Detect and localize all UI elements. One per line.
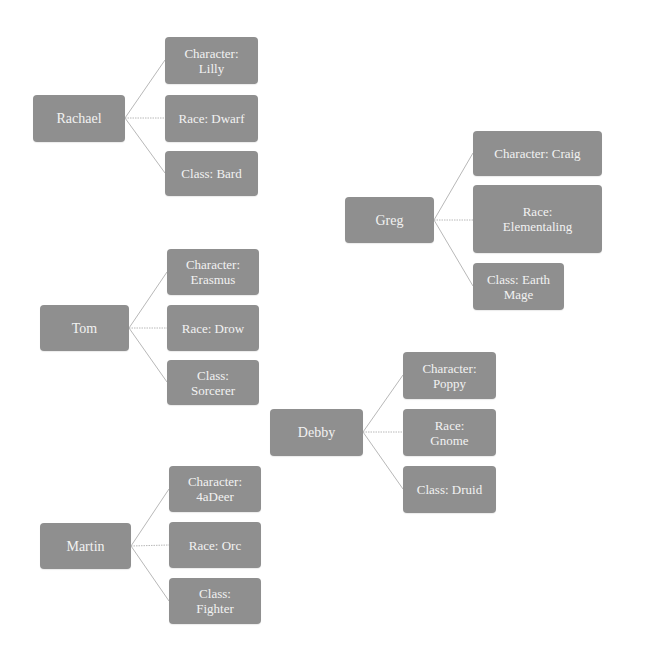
race-label: Race: Elementaling (497, 204, 578, 234)
character-label: Character: Craig (494, 146, 580, 161)
class-label: Class: Earth Mage (477, 272, 560, 302)
character-label: Character: 4aDeer (179, 474, 251, 504)
character-node-erasmus: Character: Erasmus (167, 249, 259, 295)
class-label: Class: Bard (181, 166, 241, 181)
player-name: Martin (66, 539, 104, 554)
class-label: Class: Fighter (187, 586, 243, 616)
race-label: Race: Dwarf (178, 111, 244, 126)
player-node-martin: Martin (40, 523, 131, 569)
race-label: Race: Gnome (421, 418, 478, 448)
character-node-poppy: Character: Poppy (403, 352, 496, 399)
character-node-lilly: Character: Lilly (165, 37, 258, 84)
race-node-drow: Race: Drow (167, 305, 259, 351)
character-node-craig: Character: Craig (473, 131, 602, 176)
class-label: Class: Druid (417, 482, 482, 497)
race-node-dwarf: Race: Dwarf (165, 95, 258, 142)
race-label: Race: Drow (182, 321, 244, 336)
race-node-elementaling: Race: Elementaling (473, 185, 602, 253)
player-node-debby: Debby (270, 409, 363, 456)
player-name: Greg (376, 213, 404, 228)
race-label: Race: Orc (189, 538, 241, 553)
player-name: Debby (298, 425, 335, 440)
player-character-diagram: Rachael Character: Lilly Race: Dwarf Cla… (0, 0, 648, 660)
class-node-sorcerer: Class: Sorcerer (167, 360, 259, 405)
player-node-tom: Tom (40, 305, 129, 351)
class-node-earth-mage: Class: Earth Mage (473, 263, 564, 310)
class-node-fighter: Class: Fighter (169, 578, 261, 624)
player-name: Rachael (56, 111, 101, 126)
character-label: Character: Poppy (413, 361, 486, 391)
player-name: Tom (72, 321, 97, 336)
player-node-rachael: Rachael (33, 95, 125, 142)
character-label: Character: Lilly (175, 46, 248, 76)
character-node-4adeer: Character: 4aDeer (169, 466, 261, 512)
race-node-orc: Race: Orc (169, 522, 261, 568)
race-node-gnome: Race: Gnome (403, 409, 496, 456)
class-node-druid: Class: Druid (403, 466, 496, 513)
character-label: Character: Erasmus (177, 257, 249, 287)
player-node-greg: Greg (345, 197, 434, 243)
class-label: Class: Sorcerer (181, 368, 245, 398)
class-node-bard: Class: Bard (165, 151, 258, 196)
